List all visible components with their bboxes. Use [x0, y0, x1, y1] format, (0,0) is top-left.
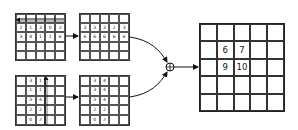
grid-cell [26, 42, 36, 51]
grid-cell [16, 86, 26, 96]
grid-cell [55, 51, 65, 60]
result-grid: 67910 [199, 23, 285, 112]
grid-cell: 2 [36, 115, 46, 125]
top-input-grid: 2130234116 [15, 13, 66, 61]
grid-cell [119, 105, 129, 115]
grid-cell [217, 94, 234, 111]
grid-cell [250, 94, 267, 111]
grid-cell: 2 [16, 23, 26, 32]
grid-cell: 3 [26, 96, 36, 106]
grid-cell [109, 51, 119, 60]
grid-cell: 7 [234, 41, 251, 58]
bottom-input-grid: 3111342202 [15, 75, 66, 126]
grid-cell: 0 [45, 23, 55, 32]
grid-cell: 0 [90, 115, 100, 125]
grid-cell: 2 [26, 105, 36, 115]
grid-cell: 2 [109, 23, 119, 32]
grid-cell [100, 51, 110, 60]
grid-cell: 1 [26, 23, 36, 32]
grid-cell: 3 [100, 23, 110, 32]
grid-cell [80, 105, 90, 115]
grid-cell: 6 [119, 32, 129, 41]
grid-cell [267, 94, 284, 111]
grid-cell [267, 76, 284, 93]
grid-cell [119, 51, 129, 60]
grid-cell: 6 [217, 41, 234, 58]
grid-cell [80, 42, 90, 51]
grid-cell [36, 51, 46, 60]
grid-cell: 4 [100, 86, 110, 96]
grid-cell [200, 24, 217, 41]
grid-cell [200, 59, 217, 76]
grid-cell [119, 115, 129, 125]
grid-cell [80, 76, 90, 86]
grid-cell [119, 76, 129, 86]
grid-cell [55, 86, 65, 96]
grid-cell: 1 [36, 32, 46, 41]
grid-cell: 6 [80, 32, 90, 41]
grid-cell: 3 [90, 86, 100, 96]
grid-cell: 3 [90, 23, 100, 32]
grid-cell [200, 94, 217, 111]
grid-cell [90, 42, 100, 51]
grid-cell: 2 [55, 23, 65, 32]
grid-cell: 4 [100, 76, 110, 86]
grid-cell [234, 94, 251, 111]
grid-cell [45, 115, 55, 125]
grid-cell [109, 115, 119, 125]
grid-cell [36, 14, 46, 23]
grid-cell: 4 [100, 96, 110, 106]
grid-cell [90, 14, 100, 23]
grid-cell [109, 86, 119, 96]
grid-cell: 6 [55, 32, 65, 41]
grid-cell [109, 105, 119, 115]
grid-cell [45, 86, 55, 96]
grid-cell: 4 [36, 96, 46, 106]
grid-cell [119, 86, 129, 96]
grid-cell [80, 51, 90, 60]
grid-cell [119, 14, 129, 23]
grid-cell [55, 105, 65, 115]
grid-cell: 6 [90, 32, 100, 41]
grid-cell [119, 96, 129, 106]
grid-cell [109, 96, 119, 106]
grid-cell [45, 42, 55, 51]
grid-cell [55, 14, 65, 23]
add-operator-icon [166, 63, 174, 71]
grid-cell: 6 [109, 32, 119, 41]
grid-cell [16, 14, 26, 23]
grid-cell: 3 [26, 76, 36, 86]
grid-cell: 3 [36, 23, 46, 32]
grid-cell [45, 96, 55, 106]
grid-cell [267, 24, 284, 41]
grid-cell [109, 42, 119, 51]
grid-cell: 2 [36, 105, 46, 115]
top-merge-curve-icon [130, 37, 167, 62]
grid-cell: 2 [90, 105, 100, 115]
grid-cell [16, 96, 26, 106]
bottom-merge-curve-icon [130, 72, 167, 97]
grid-cell: 4 [26, 32, 36, 41]
grid-cell [109, 14, 119, 23]
grid-cell: 3 [90, 76, 100, 86]
grid-cell [80, 86, 90, 96]
grid-cell [16, 105, 26, 115]
grid-cell: 1 [26, 86, 36, 96]
grid-cell [267, 41, 284, 58]
grid-cell: 0 [26, 115, 36, 125]
grid-cell [250, 41, 267, 58]
grid-cell: 3 [80, 23, 90, 32]
grid-cell [217, 24, 234, 41]
grid-cell: 2 [100, 115, 110, 125]
grid-cell: 2 [100, 105, 110, 115]
grid-cell [26, 14, 36, 23]
grid-cell [55, 76, 65, 86]
grid-cell [200, 41, 217, 58]
grid-cell [100, 42, 110, 51]
grid-cell [45, 14, 55, 23]
grid-cell: 3 [16, 32, 26, 41]
grid-cell [267, 59, 284, 76]
grid-cell: 1 [45, 32, 55, 41]
grid-cell [250, 59, 267, 76]
grid-cell [80, 96, 90, 106]
